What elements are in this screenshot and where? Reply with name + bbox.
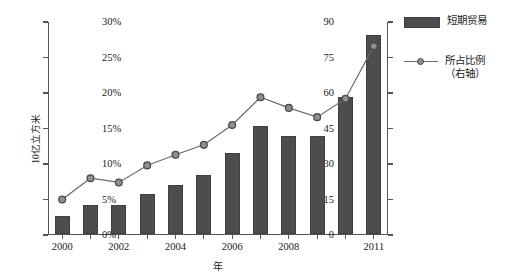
y2-tick-mark bbox=[388, 21, 393, 22]
line-marker bbox=[144, 162, 151, 169]
x-tick-label: 2004 bbox=[165, 242, 186, 253]
line-marker bbox=[200, 141, 207, 148]
line-marker bbox=[257, 94, 264, 101]
legend-line-label-sub: （右轴） bbox=[445, 67, 485, 80]
x-tick-label: 2008 bbox=[278, 242, 299, 253]
x-tick-label: 2011 bbox=[364, 242, 385, 253]
legend-line-label-main: 所占比例 bbox=[445, 55, 485, 66]
line-marker bbox=[314, 114, 321, 121]
x-tick-mark bbox=[232, 235, 233, 239]
legend-bar-swatch-icon bbox=[404, 17, 440, 28]
legend-line-swatch-icon bbox=[404, 56, 438, 67]
x-tick-mark bbox=[260, 235, 261, 239]
line-marker bbox=[172, 151, 179, 158]
y2-tick-mark bbox=[388, 199, 393, 200]
legend-bar-label: 短期贸易 bbox=[447, 14, 487, 27]
line-path bbox=[62, 46, 374, 199]
x-tick-mark bbox=[62, 235, 63, 239]
x-tick-mark bbox=[345, 235, 346, 239]
line-marker bbox=[342, 95, 349, 102]
x-tick-mark bbox=[118, 235, 119, 239]
y2-tick-mark bbox=[388, 163, 393, 164]
x-tick-mark bbox=[147, 235, 148, 239]
x-tick-label: 2000 bbox=[52, 242, 73, 253]
chart-legend: 短期贸易 所占比例 （右轴） bbox=[404, 14, 504, 106]
line-marker bbox=[87, 175, 94, 182]
x-axis-title: 年 bbox=[213, 258, 223, 273]
line-marker bbox=[115, 179, 122, 186]
line-marker bbox=[229, 122, 236, 129]
line-marker bbox=[370, 43, 377, 50]
x-tick-mark bbox=[317, 235, 318, 239]
x-tick-mark bbox=[203, 235, 204, 239]
legend-item-bar: 短期贸易 bbox=[404, 14, 504, 28]
plot-area: 0153045607590 0%5%10%15%20%25%30% 200020… bbox=[48, 22, 388, 235]
line-series bbox=[48, 22, 388, 235]
y2-tick-mark bbox=[388, 57, 393, 58]
x-tick-label: 2006 bbox=[222, 242, 243, 253]
x-tick-mark bbox=[373, 235, 374, 239]
x-tick-mark bbox=[90, 235, 91, 239]
x-tick-mark bbox=[288, 235, 289, 239]
y-axis-title: 10亿立方米 bbox=[28, 114, 42, 164]
x-tick-label: 2002 bbox=[108, 242, 129, 253]
y2-tick-mark bbox=[388, 234, 393, 235]
y2-tick-mark bbox=[388, 92, 393, 93]
y2-tick-mark bbox=[388, 128, 393, 129]
line-marker bbox=[59, 196, 66, 203]
legend-line-label: 所占比例 （右轴） bbox=[445, 54, 485, 80]
line-marker bbox=[285, 105, 292, 112]
legend-item-line: 所占比例 （右轴） bbox=[404, 54, 504, 80]
x-tick-mark bbox=[175, 235, 176, 239]
chart-figure: 10亿立方米 年 0153045607590 0%5%10%15%20%25%3… bbox=[0, 0, 505, 277]
